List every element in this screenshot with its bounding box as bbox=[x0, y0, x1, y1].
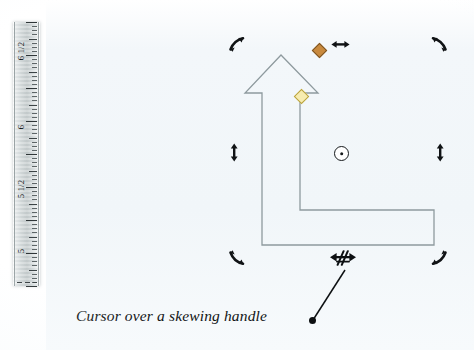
figure-page: 6 1/265 1/25 bbox=[0, 0, 474, 350]
page-vignette bbox=[0, 0, 474, 350]
